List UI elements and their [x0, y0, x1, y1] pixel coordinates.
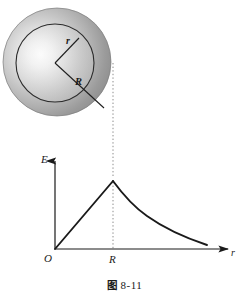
caption-prefix: 图 [107, 279, 118, 291]
radius-r-label: r [66, 35, 70, 46]
sphere-group: r R [3, 8, 111, 116]
curve-inside-linear [55, 181, 113, 249]
figure-caption: 图 8-11 [0, 277, 249, 292]
curve-outside-inverse-square [113, 181, 207, 245]
origin-label-O: O [44, 252, 52, 264]
field-curves [55, 181, 207, 249]
radius-R-label: R [74, 76, 82, 87]
x-tick-label-R: R [108, 253, 116, 265]
figure-graphic: r R E r O R [0, 0, 249, 302]
x-axis-label-r: r [231, 247, 235, 258]
figure-container: r R E r O R 图 8-11 [0, 0, 249, 302]
y-axis-label-E: E [40, 153, 48, 165]
caption-number: 8-11 [120, 279, 142, 291]
